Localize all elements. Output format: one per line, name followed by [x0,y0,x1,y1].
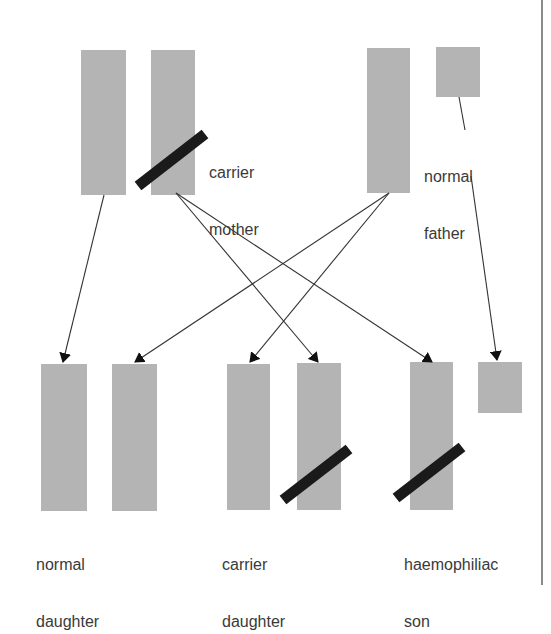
arrow-mother-to-normal-daughter [63,195,104,362]
label-normal-father: normal father [424,129,473,262]
label-line: son [404,612,498,631]
arrow-father-x-to-normal-daughter [135,193,389,362]
label-line: normal [424,167,473,186]
label-normal-daughter: normal daughter [36,517,99,634]
line-father-y-top [459,97,465,130]
gene-bar-son [396,447,462,498]
label-carrier-daughter: carrier daughter [222,517,285,634]
label-haemophiliac-son: haemophiliac son [404,517,498,634]
label-line: carrier [209,163,259,182]
gene-bar-mother [138,134,205,186]
label-line: daughter [36,612,99,631]
label-line: mother [209,220,259,239]
label-line: father [424,224,473,243]
arrow-father-x-to-carrier-daughter [250,193,389,362]
label-line: normal [36,555,99,574]
label-line: daughter [222,612,285,631]
label-carrier-mother: carrier mother [209,125,259,258]
label-line: haemophiliac [404,555,498,574]
gene-bar-carrier-daughter [283,449,349,500]
arrow-father-y-to-son [471,176,497,360]
label-line: carrier [222,555,285,574]
